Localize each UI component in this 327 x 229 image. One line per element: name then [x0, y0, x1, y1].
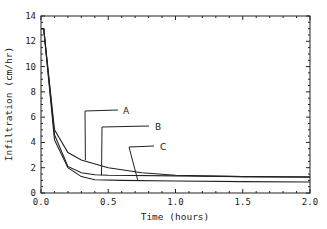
y-tick-label: 0 [31, 188, 36, 198]
axis-ticks: 0.00.51.01.52.002468101214 [25, 11, 318, 207]
y-tick-label: 6 [31, 112, 36, 122]
curve-c [41, 29, 310, 182]
x-tick-label: 0.0 [33, 197, 49, 207]
data-curves [41, 29, 310, 182]
y-axis-title: Infiltration (cm/hr) [3, 47, 14, 161]
annotation-label: B [155, 122, 161, 132]
plot-frame [41, 16, 310, 193]
curve-a [41, 29, 310, 178]
y-tick-label: 2 [31, 163, 36, 173]
annotation-label: A [123, 106, 130, 116]
annotation-b: B [102, 122, 162, 175]
y-tick-label: 4 [31, 137, 36, 147]
y-tick-label: 12 [25, 36, 36, 46]
y-tick-label: 10 [25, 62, 36, 72]
curve-annotations: ABC [85, 106, 166, 180]
x-axis-title: Time (hours) [141, 211, 210, 222]
y-tick-label: 8 [31, 87, 36, 97]
x-tick-label: 0.5 [100, 197, 116, 207]
annotation-label: C [160, 142, 166, 152]
curve-b [41, 29, 310, 177]
annotation-a: A [85, 106, 130, 160]
infiltration-chart: 0.00.51.01.52.002468101214 ABC Time (hou… [0, 0, 327, 229]
x-tick-label: 1.5 [235, 197, 251, 207]
y-tick-label: 14 [25, 11, 36, 21]
x-tick-label: 1.0 [167, 197, 183, 207]
x-tick-label: 2.0 [302, 197, 318, 207]
